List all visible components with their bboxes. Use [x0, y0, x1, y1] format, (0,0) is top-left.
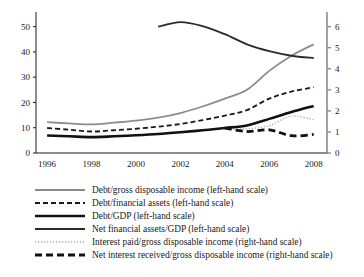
- series-lines: [47, 22, 314, 137]
- x-axis-tick-label: 1998: [83, 159, 102, 169]
- legend-swatch-dotted-icon: [33, 236, 87, 248]
- legend-label: Net financial assets/GDP (left-hand scal…: [87, 223, 249, 235]
- legend-item[interactable]: Interest paid/gross disposable income (r…: [33, 235, 363, 248]
- legend-label: Debt/GDP (left-hand scale): [87, 210, 195, 222]
- x-axis-tick-label: 1996: [38, 159, 57, 169]
- legend-swatch-solid-gray-icon: [33, 184, 87, 196]
- legend-item[interactable]: Debt/GDP (left-hand scale): [33, 209, 363, 222]
- left-axis-tick-label: 10: [21, 123, 31, 133]
- legend-label: Net interest received/gross disposable i…: [87, 249, 333, 261]
- right-axis-tick-label: 1: [335, 127, 340, 137]
- x-axis-tick-label: 2008: [305, 159, 324, 169]
- right-axis-tick-label: 4: [335, 64, 340, 74]
- legend-label: Debt/gross disposable income (left-hand …: [87, 184, 268, 196]
- legend-swatch-dashed-icon: [33, 197, 87, 209]
- legend-label: Debt/financial assets (left-hand scale): [87, 197, 233, 209]
- legend-item[interactable]: Debt/financial assets (left-hand scale): [33, 196, 363, 209]
- left-axis-tick-label: 50: [21, 22, 31, 32]
- left-axis-tick-label: 0: [26, 148, 31, 158]
- x-axis-tick-label: 2004: [216, 159, 235, 169]
- legend-label: Interest paid/gross disposable income (r…: [87, 236, 302, 248]
- right-axis: 0123456: [327, 12, 340, 158]
- x-axis-tick-label: 2002: [171, 159, 189, 169]
- right-axis-tick-label: 2: [335, 106, 340, 116]
- series-line-5: [225, 128, 314, 136]
- left-axis-tick-label: 20: [21, 98, 31, 108]
- series-line-2: [47, 106, 314, 137]
- legend-item[interactable]: Net financial assets/GDP (left-hand scal…: [33, 222, 363, 235]
- left-axis: 01020304050: [21, 12, 36, 158]
- series-line-0: [47, 44, 314, 124]
- legend-item[interactable]: Debt/gross disposable income (left-hand …: [33, 183, 363, 196]
- x-axis-tick-label: 2006: [260, 159, 279, 169]
- legend-swatch-solid-thick-icon: [33, 210, 87, 222]
- right-axis-tick-label: 3: [335, 85, 340, 95]
- x-axis-tick-label: 2000: [127, 159, 146, 169]
- right-axis-tick-label: 6: [335, 22, 340, 32]
- series-line-3: [158, 22, 313, 58]
- right-axis-tick-label: 0: [335, 148, 340, 158]
- right-axis-tick-label: 5: [335, 43, 340, 53]
- legend-swatch-solid-medium-icon: [33, 223, 87, 235]
- chart-legend: Debt/gross disposable income (left-hand …: [33, 183, 363, 261]
- chart-figure: 01020304050 0123456 19961998200020022004…: [0, 0, 364, 277]
- legend-item[interactable]: Net interest received/gross disposable i…: [33, 248, 363, 261]
- x-axis: 1996199820002002200420062008: [36, 153, 327, 169]
- left-axis-tick-label: 40: [21, 47, 31, 57]
- legend-swatch-dashed-bold-icon: [33, 249, 87, 261]
- left-axis-tick-label: 30: [21, 72, 31, 82]
